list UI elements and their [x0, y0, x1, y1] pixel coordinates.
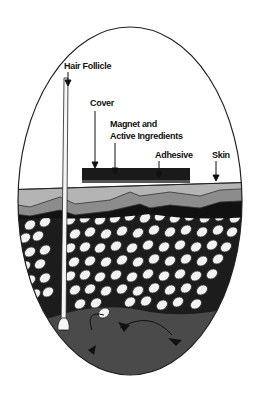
- label-magnet-line1: Magnet and: [110, 119, 157, 129]
- label-hair-follicle: Hair Follicle: [64, 61, 111, 71]
- skin-patch-diagram: Hair Follicle Cover Magnet and Active In…: [0, 0, 260, 401]
- label-cover: Cover: [90, 98, 115, 108]
- label-magnet-line2: Active Ingredients: [110, 131, 183, 141]
- label-skin: Skin: [212, 150, 230, 160]
- adhesive-layer: [82, 180, 190, 183]
- label-adhesive: Adhesive: [155, 150, 193, 160]
- magnetic-patch: [82, 168, 190, 182]
